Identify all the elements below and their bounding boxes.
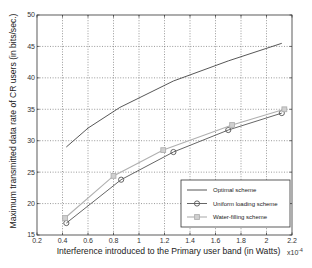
data-point: [63, 216, 68, 221]
legend-label: Optimal scheme: [213, 187, 257, 193]
data-point: [195, 215, 200, 220]
y-tick-label: 40: [27, 74, 35, 81]
x-tick-label: 1: [137, 237, 141, 244]
x-tick-label: 1.8: [236, 237, 246, 244]
y-tick-label: 35: [27, 106, 35, 113]
line-chart: 0.20.40.60.811.21.41.61.822.2 1520253035…: [0, 0, 312, 268]
x-tick-label: 1.4: [185, 237, 195, 244]
data-point: [230, 123, 235, 128]
y-tick-label: 50: [27, 11, 35, 18]
x-tick-label: 0.8: [109, 237, 119, 244]
legend-item: Water-filling scheme: [187, 214, 268, 220]
legend-label: Uniform loading scheme: [213, 201, 278, 207]
data-point: [282, 107, 287, 112]
x-tick-label: 1.6: [211, 237, 221, 244]
y-tick-label: 30: [27, 137, 35, 144]
series-line: [66, 43, 281, 147]
data-point: [161, 148, 166, 153]
x-axis-label: Interference introduced to the Primary u…: [57, 246, 281, 256]
y-axis-label: Maximum transmitted data rate of CR user…: [8, 13, 18, 228]
legend-label: Water-filling scheme: [213, 214, 268, 220]
x-tick-label: 2: [265, 237, 269, 244]
y-tick-label: 25: [27, 169, 35, 176]
y-tick-label: 45: [27, 43, 35, 50]
x-tick-label: 1.2: [160, 237, 170, 244]
x-tick-label: 2.2: [287, 237, 297, 244]
x-tick-label: 0.6: [83, 237, 93, 244]
legend: Optimal schemeUniform loading schemeWate…: [181, 180, 290, 227]
y-tick-label: 15: [27, 231, 35, 238]
data-point: [111, 174, 116, 179]
y-tick-label: 20: [27, 200, 35, 207]
series-optimal-scheme: [66, 43, 281, 147]
x-tick-label: 0.4: [58, 237, 68, 244]
x-axis-multiplier: x10-4: [287, 247, 303, 256]
